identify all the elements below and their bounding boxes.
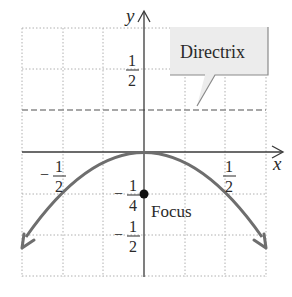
callout-label: Directrix <box>180 42 245 62</box>
svg-text:1: 1 <box>128 52 136 69</box>
svg-text:1: 1 <box>129 218 137 235</box>
svg-text:2: 2 <box>129 238 137 255</box>
x-axis-label: x <box>272 153 282 174</box>
svg-text:−: − <box>40 166 49 183</box>
tick-label-y-neg-half: − 1 2 <box>114 218 140 255</box>
tick-label-x-pos-half: 1 2 <box>223 158 236 195</box>
tick-label-y-pos-half: 1 2 <box>126 52 139 89</box>
parabola-diagram: y x Directrix Focus 1 2 − 1 2 1 2 − 1 4 … <box>0 0 292 297</box>
svg-text:−: − <box>114 226 123 243</box>
svg-text:1: 1 <box>129 177 137 194</box>
svg-text:2: 2 <box>128 72 136 89</box>
tick-label-y-neg-quarter: − 1 4 <box>114 177 140 214</box>
svg-text:2: 2 <box>225 178 233 195</box>
tick-label-x-neg-half: − 1 2 <box>40 158 66 195</box>
svg-text:1: 1 <box>225 158 233 175</box>
focus-point <box>140 190 149 199</box>
svg-text:4: 4 <box>129 197 137 214</box>
y-axis-label: y <box>124 5 135 26</box>
directrix-callout <box>170 27 268 106</box>
focus-label: Focus <box>151 202 192 221</box>
svg-text:−: − <box>114 185 123 202</box>
y-axis <box>138 11 150 277</box>
svg-text:2: 2 <box>55 178 63 195</box>
svg-text:1: 1 <box>55 158 63 175</box>
